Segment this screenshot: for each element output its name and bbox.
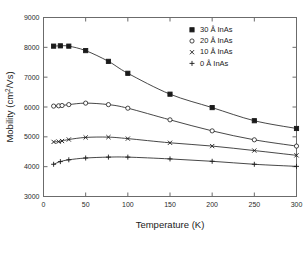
x-axis-title: Temperature (K) (136, 219, 205, 230)
data-point-20A (84, 101, 88, 105)
x-tick-label: 50 (82, 201, 90, 208)
legend-marker-square (190, 28, 194, 32)
legend-label: 20 Å InAs (200, 36, 233, 45)
x-tick-label: 100 (122, 201, 134, 208)
legend-marker-circle (190, 39, 194, 43)
data-point-30A (106, 59, 110, 63)
data-point-30A (252, 119, 256, 123)
y-tick-label: 7000 (24, 74, 40, 81)
y-tick-label: 6000 (24, 104, 40, 111)
data-point-30A (294, 126, 298, 130)
y-axis-title-tail: /Vs) (4, 71, 15, 88)
data-point-30A (52, 44, 56, 48)
x-tick-label: 300 (291, 201, 303, 208)
y-tick-label: 5000 (24, 133, 40, 140)
y-tick-label: 9000 (24, 14, 40, 21)
y-tick-label: 8000 (24, 44, 40, 51)
data-point-20A (168, 118, 172, 122)
y-tick-label: 3000 (24, 193, 40, 200)
data-point-30A (84, 49, 88, 53)
x-tick-label: 250 (248, 201, 260, 208)
data-point-20A (60, 103, 64, 107)
data-point-20A (52, 104, 56, 108)
legend-label: 30 Å InAs (200, 25, 233, 34)
y-axis-title-main: Mobility (cm (4, 92, 15, 143)
data-point-20A (252, 138, 256, 142)
data-point-30A (168, 92, 172, 96)
data-point-20A (126, 106, 130, 110)
legend-label: 10 Å InAs (200, 47, 233, 56)
legend-label: 0 Å InAs (200, 59, 229, 68)
data-point-20A (294, 144, 298, 148)
data-point-30A (58, 44, 62, 48)
chart-background (0, 0, 305, 255)
data-point-20A (106, 103, 110, 107)
data-point-20A (210, 129, 214, 133)
data-point-30A (67, 44, 71, 48)
y-tick-label: 4000 (24, 163, 40, 170)
data-point-30A (126, 71, 130, 75)
x-tick-label: 0 (42, 201, 46, 208)
x-tick-label: 150 (164, 201, 176, 208)
mobility-vs-temperature-chart: 3000400050006000700080009000 05010015020… (0, 0, 305, 255)
data-point-30A (210, 105, 214, 109)
x-tick-label: 200 (206, 201, 218, 208)
chart-figure: 3000400050006000700080009000 05010015020… (0, 0, 305, 255)
y-axis-title: Mobility (cm2/Vs) (4, 71, 15, 142)
data-point-20A (67, 103, 71, 107)
svg-text:Mobility (cm2/Vs): Mobility (cm2/Vs) (4, 71, 15, 142)
